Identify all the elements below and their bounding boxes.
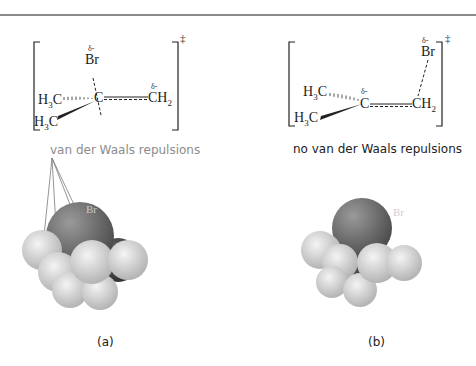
methyl-upper-a: H3C [38, 92, 62, 110]
center-charge-b: δ- [361, 87, 367, 96]
br-model-label-b: Br [393, 206, 404, 218]
ch2-group-a: CH2 [148, 90, 172, 108]
structure-a-graphics [0, 0, 476, 366]
panel-label-b: (b) [368, 335, 385, 349]
methyl-lower-a: H3C [34, 114, 58, 132]
caption-a: van der Waals repulsions [50, 143, 200, 157]
br-atom-a: Br [85, 52, 99, 68]
ch2-group-b: CH2 [412, 96, 436, 114]
caption-b: no van der Waals repulsions [293, 142, 462, 156]
methyl-upper-b: H3C [303, 84, 327, 102]
ts-symbol-a: ‡ [180, 32, 186, 44]
br-model-label-a: Br [86, 203, 97, 215]
center-carbon-b: C [360, 96, 369, 112]
ts-symbol-b: ‡ [445, 32, 451, 44]
br-atom-b: Br [421, 44, 435, 60]
space-filling-model-a [22, 202, 148, 310]
panel-label-a: (a) [97, 335, 114, 349]
center-carbon-a: C [94, 90, 103, 106]
methyl-lower-b: H3C [294, 110, 318, 128]
